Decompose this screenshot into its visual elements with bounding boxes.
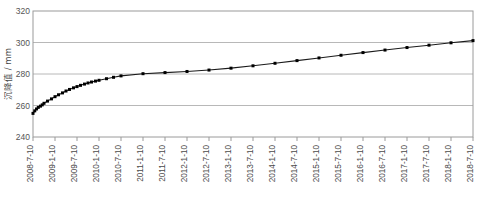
x-tick-label: 2015-1-10 — [312, 145, 321, 183]
data-point — [76, 85, 79, 88]
data-point — [274, 62, 277, 65]
x-tick-label: 2012-1-10 — [180, 145, 189, 183]
x-tick-label: 2016-1-10 — [356, 145, 365, 183]
x-tick-label: 2016-7-10 — [378, 145, 387, 183]
y-axis-title: 沉降值 / mm — [3, 48, 13, 100]
data-point — [72, 86, 75, 89]
x-axis-ticks — [33, 137, 473, 141]
data-point — [252, 64, 255, 67]
y-tick-label: 240 — [16, 132, 30, 142]
x-tick-label: 2017-1-10 — [400, 145, 409, 183]
y-axis-tick-labels: 240260280300320 — [16, 6, 30, 142]
data-point — [68, 88, 71, 91]
data-point — [65, 90, 68, 93]
data-point — [105, 77, 108, 80]
x-tick-label: 2017-7-10 — [422, 145, 431, 183]
data-point — [450, 41, 453, 44]
x-tick-label: 2012-7-10 — [202, 145, 211, 183]
data-point — [186, 70, 189, 73]
data-point — [318, 56, 321, 59]
data-point — [79, 84, 82, 87]
data-point — [362, 51, 365, 54]
data-point — [46, 100, 49, 103]
data-point — [164, 71, 167, 74]
y-tick-label: 320 — [16, 6, 30, 16]
x-tick-label: 2014-7-10 — [290, 145, 299, 183]
x-tick-label: 2018-1-10 — [444, 145, 453, 183]
data-point — [428, 44, 431, 47]
chart-canvas: 240260280300320 2008-7-102009-1-102009-7… — [0, 0, 486, 199]
data-point — [54, 95, 57, 98]
x-tick-label: 2018-7-10 — [466, 145, 475, 183]
data-point — [61, 91, 64, 94]
data-point — [340, 54, 343, 57]
data-point — [90, 81, 93, 84]
y-tick-label: 280 — [16, 69, 30, 79]
data-point — [57, 93, 60, 96]
data-point — [406, 46, 409, 49]
y-tick-label: 300 — [16, 38, 30, 48]
settlement-line-chart: 240260280300320 2008-7-102009-1-102009-7… — [0, 0, 486, 199]
data-point — [87, 81, 90, 84]
x-tick-label: 2013-1-10 — [224, 145, 233, 183]
data-point — [112, 76, 115, 79]
data-point — [50, 97, 53, 100]
x-axis-tick-labels: 2008-7-102009-1-102009-7-102010-1-102010… — [26, 145, 475, 183]
data-point — [120, 74, 123, 77]
y-tick-label: 260 — [16, 101, 30, 111]
data-point — [472, 39, 475, 42]
x-tick-label: 2013-7-10 — [246, 145, 255, 183]
data-point — [142, 72, 145, 75]
x-tick-label: 2008-7-10 — [26, 145, 35, 183]
data-point — [98, 79, 101, 82]
x-tick-label: 2011-1-10 — [136, 145, 145, 182]
y-axis-title-text: 沉降值 / mm — [3, 48, 13, 100]
data-point — [43, 102, 46, 105]
x-tick-label: 2009-1-10 — [48, 145, 57, 183]
data-point — [208, 69, 211, 72]
x-tick-label: 2011-7-10 — [158, 145, 167, 182]
x-tick-label: 2010-7-10 — [114, 145, 123, 183]
data-point — [230, 67, 233, 70]
data-point — [384, 49, 387, 52]
data-point — [94, 80, 97, 83]
data-point — [296, 59, 299, 62]
x-tick-label: 2015-7-10 — [334, 145, 343, 183]
x-tick-label: 2010-1-10 — [92, 145, 101, 183]
x-tick-label: 2014-1-10 — [268, 145, 277, 183]
x-tick-label: 2009-7-10 — [70, 145, 79, 183]
data-point — [83, 83, 86, 86]
